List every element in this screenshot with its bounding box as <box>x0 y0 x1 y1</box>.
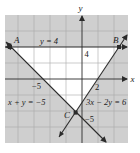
tick-label-x-minus-5: −5 <box>32 81 41 91</box>
equation-x-plus-y: x + y = −5 <box>7 97 46 107</box>
equation-y-equals-4: y = 4 <box>39 36 59 46</box>
vertex-b-point <box>117 45 121 49</box>
vertex-a-point <box>8 45 12 49</box>
y-axis-label: y <box>78 3 83 13</box>
vertex-c-label: C <box>64 110 71 120</box>
vertex-b-label: B <box>113 35 119 45</box>
tick-label-y-minus-5: −5 <box>85 114 94 124</box>
vertex-c-point <box>74 111 78 115</box>
equation-3x-minus-2y: 3x − 2y = 6 <box>85 97 127 107</box>
inequality-graph: y x A B C y = 4 x + y = −5 3x − 2y = 6 4… <box>0 0 140 153</box>
vertex-a-label: A <box>13 35 20 45</box>
x-axis-label: x <box>130 74 135 84</box>
tick-label-x-2: 2 <box>95 82 99 92</box>
